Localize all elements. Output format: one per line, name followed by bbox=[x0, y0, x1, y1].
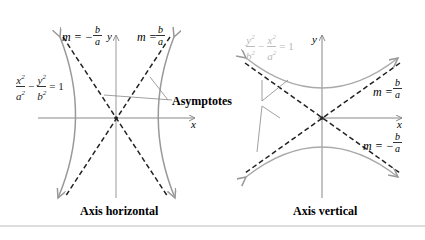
left-panel bbox=[38, 35, 195, 198]
pointer-line bbox=[262, 80, 288, 101]
left-slope-neg-label: m = − bbox=[62, 30, 93, 45]
right-slope-neg-label: m = − bbox=[363, 139, 394, 154]
left-equation: x2a2 − y2b2 = 1 bbox=[16, 71, 64, 101]
center-point bbox=[114, 116, 118, 120]
right-y-axis-label: y bbox=[312, 33, 317, 45]
pointer-line bbox=[262, 106, 280, 118]
left-slope-pos-fraction: b a bbox=[156, 24, 165, 47]
pointer-line bbox=[104, 95, 172, 100]
left-slope-pos-label: m = bbox=[137, 30, 157, 45]
right-slope-pos-label: m = bbox=[373, 85, 393, 100]
right-slope-neg-fraction: b a bbox=[393, 131, 402, 154]
pointer-line bbox=[257, 106, 262, 152]
left-y-axis-label: y bbox=[107, 30, 112, 42]
right-caption: Axis vertical bbox=[293, 204, 357, 219]
left-x-axis-label: x bbox=[191, 118, 196, 130]
left-slope-neg-fraction: b a bbox=[93, 24, 102, 47]
right-slope-pos-fraction: b a bbox=[393, 77, 402, 100]
right-equation: y2b2 − x2a2 = 1 bbox=[246, 31, 294, 61]
left-caption: Axis horizontal bbox=[80, 204, 158, 219]
center-point bbox=[320, 116, 324, 120]
right-x-axis-label: x bbox=[397, 118, 402, 130]
asymptote-pos bbox=[65, 37, 170, 197]
asymptotes-label: Asymptotes bbox=[172, 94, 232, 109]
